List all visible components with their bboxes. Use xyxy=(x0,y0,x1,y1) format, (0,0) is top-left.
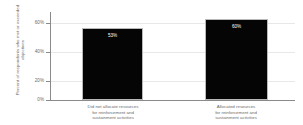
x-category-label-did-not-allocate: Did not allocate resources for reinforce… xyxy=(52,104,174,121)
x-category-label-allocated: Allocated resources for reinforcement an… xyxy=(176,104,296,121)
y-tick-mark-40 xyxy=(46,52,50,53)
x-category-line-3: sustainment activities xyxy=(52,115,174,121)
y-tick-label-60: 60% xyxy=(2,20,44,25)
x-category-line-3: sustainment activities xyxy=(176,115,296,121)
y-tick-label-20: 20% xyxy=(2,78,44,83)
x-axis-line xyxy=(50,100,295,101)
y-axis-line xyxy=(50,12,51,101)
y-tick-mark-0 xyxy=(46,100,50,101)
bar-allocated[interactable]: 60% xyxy=(205,19,268,100)
bar-value-label: 60% xyxy=(206,24,267,29)
bar-chart: Percent of respondents who met or exceed… xyxy=(0,0,303,125)
bar-did-not-allocate[interactable]: 53% xyxy=(82,28,143,100)
y-tick-mark-20 xyxy=(46,81,50,82)
y-tick-label-0: 0% xyxy=(2,97,44,102)
plot-area: 53% 60% xyxy=(50,12,295,100)
y-tick-label-40: 40% xyxy=(2,49,44,54)
y-tick-mark-60 xyxy=(46,23,50,24)
bar-value-label: 53% xyxy=(83,33,142,38)
